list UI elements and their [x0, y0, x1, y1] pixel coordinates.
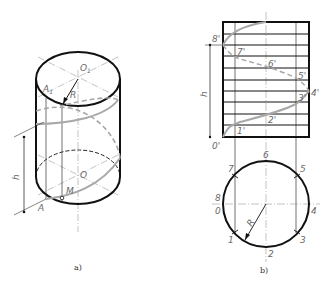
label-0p: 0' — [212, 141, 220, 151]
label-2: 2 — [268, 249, 274, 259]
label-r-b: R — [245, 217, 257, 228]
label-2p: 2' — [268, 115, 276, 125]
label-o: O — [80, 170, 87, 180]
label-7: 7 — [228, 164, 234, 174]
label-1: 1 — [228, 235, 234, 245]
label-r: R — [70, 90, 76, 100]
label-h-b: h — [199, 91, 209, 97]
label-6: 6 — [263, 150, 269, 160]
label-8: 8 — [215, 193, 221, 203]
label-6p: 6' — [268, 59, 276, 69]
label-a: A — [37, 203, 44, 213]
helix-drawing: O1 A1 R O M A h a) — [0, 0, 323, 285]
label-h: h — [11, 174, 21, 180]
label-7p: 7' — [237, 47, 245, 57]
panel-a-isometric: O1 A1 R O M A h a) — [11, 52, 120, 272]
label-8p: 8' — [212, 34, 220, 44]
label-4: 4 — [311, 206, 317, 216]
label-3: 3 — [300, 235, 306, 245]
label-m: M — [66, 186, 74, 196]
label-5: 5 — [300, 164, 306, 174]
label-0: 0 — [215, 206, 221, 216]
label-o1: O1 — [80, 63, 91, 74]
caption-b: b) — [260, 266, 268, 275]
label-4p: 4' — [311, 88, 319, 98]
label-5p: 5' — [298, 71, 306, 81]
label-a1: A1 — [42, 84, 53, 95]
caption-a: a) — [74, 263, 82, 272]
panel-b-orthographic: 8' 7' 6' 5' 4' 3' 2' 1' 0' h 6 7 5 8 0 4… — [199, 12, 320, 275]
label-1p: 1' — [237, 126, 245, 136]
label-3p: 3' — [298, 93, 306, 103]
